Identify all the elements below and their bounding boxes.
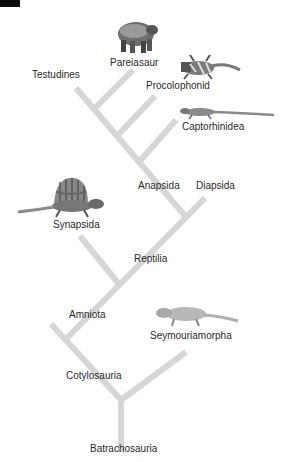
branch-synapsida — [80, 236, 118, 283]
branch-captorhinidea — [139, 120, 176, 162]
label-procolophonid: Procolophonid — [146, 80, 210, 92]
label-amniota: Amniota — [69, 309, 106, 321]
pareiasaur-icon — [112, 14, 160, 56]
branch-cotylosauria — [51, 324, 122, 401]
branch-pareiasaur — [94, 70, 133, 109]
label-batrachosauria: Batrachosauria — [90, 443, 157, 455]
label-cotylosauria: Cotylosauria — [66, 370, 122, 382]
label-synapsida: Synapsida — [53, 219, 100, 231]
label-captorhinidea: Captorhinidea — [182, 121, 244, 133]
label-diapsida: Diapsida — [196, 180, 235, 192]
captorhinid-lizard-icon — [180, 104, 276, 120]
label-reptilia: Reptilia — [134, 253, 167, 265]
seymouria-icon — [156, 303, 240, 327]
label-testudines: Testudines — [32, 69, 80, 81]
branch-seymouriamorpha — [121, 352, 186, 400]
label-seymouriamorpha: Seymouriamorpha — [150, 330, 232, 342]
label-anapsida: Anapsida — [138, 180, 180, 192]
branch-procolophonid — [117, 96, 155, 136]
label-pareiasaur: Pareiasaur — [110, 57, 158, 69]
procolophonid-lizard-icon — [176, 52, 242, 80]
dimetrodon-icon — [16, 174, 106, 220]
